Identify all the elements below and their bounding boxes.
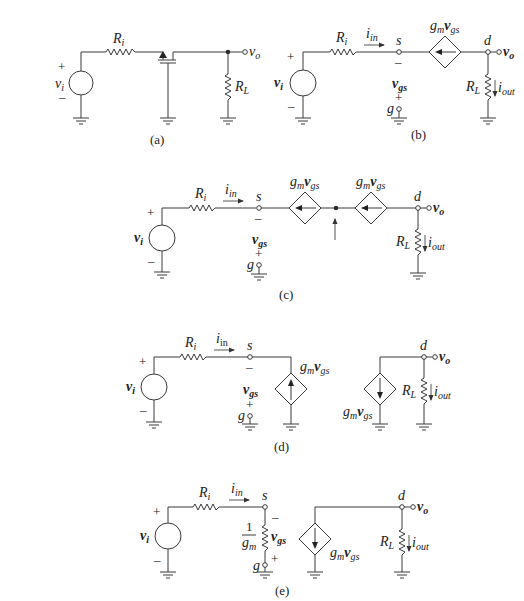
minus-sign: –	[287, 98, 295, 113]
panel-e: + – vi Ri iin s – 1 gm vgs + g	[140, 481, 429, 598]
caption-c: (c)	[279, 287, 293, 302]
input-resistor-icon	[193, 504, 219, 510]
ground-icon	[394, 572, 410, 578]
source-node-label: s	[396, 33, 402, 48]
drain-node-label: d	[414, 189, 422, 204]
resistor-denominator: gm	[242, 535, 256, 552]
ground-icon	[307, 572, 323, 578]
ground-icon	[146, 422, 162, 428]
panel-c: + – vi Ri iin s – vgs + g gmvgs	[134, 174, 445, 302]
dependent-source-label: gmvgs	[356, 174, 385, 191]
transconductance-resistor-icon	[262, 525, 268, 551]
panel-d: + – vi Ri iin s – vgs + g gm	[126, 331, 451, 454]
input-resistor-label: Ri	[112, 31, 125, 48]
gate-node	[257, 263, 262, 268]
load-resistor-icon	[225, 74, 231, 100]
output-terminal	[497, 50, 502, 55]
source-voltage-label: vi	[140, 528, 149, 545]
source-node-label: s	[247, 338, 253, 353]
load-resistor-icon	[399, 529, 405, 555]
input-resistor-label: Ri	[335, 30, 348, 47]
circuit-figure: + – vi Ri vo RL (a)	[0, 0, 524, 601]
gate-node	[397, 107, 402, 112]
input-current-label: iin	[216, 331, 228, 348]
plus-sign: +	[287, 49, 294, 64]
source-voltage-label: vi	[55, 76, 64, 93]
input-current-label: iin	[366, 26, 378, 43]
source-node-label: s	[262, 488, 268, 503]
load-resistor-icon	[421, 378, 427, 404]
output-label: vo	[417, 499, 428, 516]
input-current-label: iin	[231, 481, 243, 498]
gate-node-label: g	[253, 558, 260, 573]
plus-sign: +	[58, 59, 65, 74]
minus-sign: –	[153, 552, 161, 567]
source-voltage-label: vi	[134, 230, 143, 247]
dependent-current-source-icon	[275, 373, 307, 405]
drain-node	[422, 355, 427, 360]
output-current-label: iout	[434, 384, 451, 401]
vgs-label: vgs	[271, 529, 286, 546]
ground-icon	[160, 572, 176, 578]
input-resistor-icon	[106, 49, 135, 55]
dependent-source-label: gmvgs	[300, 359, 329, 376]
dependent-current-source-icon	[289, 192, 321, 224]
dependent-source-label: gmvgs	[430, 18, 459, 35]
output-label: vo	[249, 44, 260, 61]
gate-node-label: g	[238, 408, 245, 423]
load-resistor-label: RL	[234, 79, 250, 96]
minus-sign: –	[147, 253, 155, 268]
input-current-label: iin	[225, 182, 237, 199]
caption-d: (d)	[274, 439, 289, 454]
ground-icon	[154, 272, 170, 278]
input-resistor-label: Ri	[184, 335, 197, 352]
gate-node	[263, 563, 268, 568]
load-resistor-icon	[415, 229, 421, 255]
dependent-current-source-icon	[355, 192, 387, 224]
minus-sign: –	[271, 509, 279, 524]
minus-sign: –	[394, 54, 402, 69]
minus-sign: –	[139, 402, 147, 417]
plus-sign: +	[139, 354, 146, 369]
panel-a: + – vi Ri vo RL (a)	[55, 31, 260, 147]
drain-node-label: d	[420, 338, 428, 353]
input-resistor-icon	[330, 49, 356, 55]
dependent-source-label: gmvgs	[330, 545, 359, 562]
output-label: vo	[433, 200, 444, 217]
plus-sign: +	[271, 551, 278, 566]
ground-icon	[73, 118, 89, 124]
mosfet-icon	[158, 51, 176, 118]
source-node-label: s	[256, 189, 262, 204]
input-resistor-label: Ri	[198, 485, 211, 502]
output-current-label: iout	[412, 535, 429, 552]
resistor-numerator: 1	[246, 519, 253, 534]
ground-icon	[372, 424, 388, 430]
dependent-source-label: gmvgs	[290, 174, 319, 191]
ground-icon	[220, 118, 236, 124]
ground-icon	[242, 424, 258, 430]
output-label: vo	[439, 349, 450, 366]
load-resistor-label: RL	[395, 234, 411, 251]
minus-sign: –	[254, 210, 262, 225]
input-resistor-icon	[189, 205, 215, 211]
drain-node-label: d	[398, 488, 406, 503]
output-current-label: iout	[498, 80, 515, 97]
ground-icon	[480, 118, 496, 124]
gate-node-label: g	[387, 101, 394, 116]
output-terminal	[243, 50, 248, 55]
source-voltage-label: vi	[126, 379, 135, 396]
load-resistor-icon	[485, 74, 491, 100]
ground-icon	[251, 274, 267, 280]
plus-sign: +	[255, 246, 262, 261]
load-resistor-label: RL	[379, 534, 395, 551]
dependent-current-source-icon	[299, 523, 331, 555]
drain-node	[486, 50, 491, 55]
voltage-source-icon	[69, 52, 93, 118]
gate-node	[248, 414, 253, 419]
dependent-source-label: gmvgs	[343, 404, 372, 421]
caption-b: (b)	[411, 127, 426, 142]
drain-node	[400, 505, 405, 510]
dependent-current-source-icon	[364, 373, 396, 405]
ground-icon	[410, 273, 426, 279]
input-resistor-label: Ri	[194, 186, 207, 203]
